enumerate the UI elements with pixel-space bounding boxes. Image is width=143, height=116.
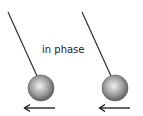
in-phase-pendulum-diagram: in phase xyxy=(0,0,143,116)
phase-label: in phase xyxy=(42,44,84,55)
arrow-left-icon xyxy=(100,105,131,112)
pendulum-bob xyxy=(28,75,54,101)
pendulum-left xyxy=(8,12,55,112)
pendulum-bob xyxy=(102,75,128,101)
pendulum-right xyxy=(82,12,130,112)
pendulum-string xyxy=(82,12,111,76)
arrow-left-icon xyxy=(25,105,56,112)
pendulum-string xyxy=(8,12,37,76)
